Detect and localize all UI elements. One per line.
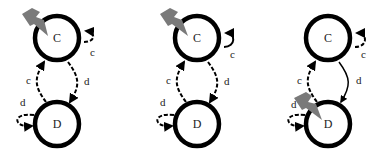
d-to-c-edge	[37, 62, 46, 102]
panel-3: c d c d C D	[288, 16, 366, 146]
state-d-label: D	[324, 117, 333, 131]
panel-1: c d c d C D	[17, 8, 95, 146]
c-self-loop	[84, 31, 93, 42]
c-self-loop-label: c	[230, 48, 235, 60]
d-to-c-edge	[177, 62, 186, 102]
state-d-label: D	[53, 117, 62, 131]
d-self-loop	[288, 115, 305, 127]
state-c-label: C	[324, 31, 332, 45]
d-self-loop-label: d	[160, 96, 166, 108]
d-self-loop	[17, 115, 34, 127]
d-to-c-label: c	[26, 74, 31, 86]
c-self-loop	[355, 33, 365, 47]
c-to-d-edge	[339, 62, 348, 102]
c-to-d-edge	[68, 62, 77, 102]
d-self-loop	[157, 115, 174, 127]
c-to-d-edge	[208, 62, 217, 102]
state-d-label: D	[193, 117, 202, 131]
c-self-loop-label: c	[90, 46, 95, 58]
panel-2: c d c d C D	[157, 8, 235, 146]
c-to-d-label: d	[224, 75, 230, 87]
state-diagram: c d c d C D c d c d C D c d c	[0, 0, 391, 157]
d-to-c-label: c	[297, 74, 302, 86]
state-c-label: C	[53, 31, 61, 45]
d-to-c-label: c	[166, 74, 171, 86]
state-c-label: C	[193, 31, 201, 45]
c-self-loop	[224, 33, 233, 47]
c-to-d-label: d	[356, 74, 362, 86]
c-to-d-label: d	[84, 75, 90, 87]
c-self-loop-label: c	[361, 48, 366, 60]
d-self-loop-label: d	[20, 96, 26, 108]
